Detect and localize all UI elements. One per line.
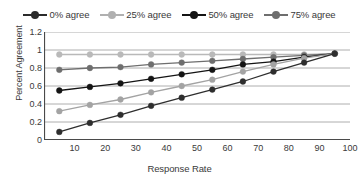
legend-item-0-agree[interactable]: 0% agree (23, 10, 89, 20)
legend-dot-icon (31, 11, 39, 19)
series-3 (56, 51, 337, 114)
x-tick-label: 90 (307, 143, 331, 153)
y-axis-tick-labels: 00.20.40.60.811.2 (18, 32, 42, 140)
x-axis-tick-labels: 102030405060708090100 (44, 142, 350, 156)
chart-svg (44, 32, 350, 140)
x-tick-label: 50 (185, 143, 209, 153)
chart-legend: 0% agree 25% agree 50% agree 75% agree (0, 4, 359, 26)
legend-item-75-agree[interactable]: 75% agree (264, 10, 335, 20)
y-tick-label: 1 (20, 46, 42, 55)
x-tick-label: 40 (154, 143, 178, 153)
y-tick-label: 0.8 (20, 64, 42, 73)
x-tick-label: 80 (277, 143, 301, 153)
series-2 (56, 51, 337, 94)
x-axis-title: Response Rate (0, 163, 359, 174)
x-tick-label: 20 (93, 143, 117, 153)
x-tick-label: 60 (216, 143, 240, 153)
x-tick-label: 30 (124, 143, 148, 153)
legend-item-25-agree[interactable]: 25% agree (100, 10, 171, 20)
legend-marker-icon (23, 11, 47, 20)
x-tick-label: 70 (246, 143, 270, 153)
plot-area (44, 32, 350, 140)
legend-marker-icon (100, 11, 124, 20)
chart-figure: 0% agree 25% agree 50% agree 75% agree P… (0, 0, 359, 187)
legend-dot-icon (272, 11, 280, 19)
legend-dot-icon (190, 11, 198, 19)
legend-label: 0% agree (49, 10, 89, 20)
y-tick-label: 0 (20, 136, 42, 145)
x-tick-label: 100 (338, 143, 359, 153)
y-tick-label: 1.2 (20, 28, 42, 37)
legend-item-50-agree[interactable]: 50% agree (182, 10, 253, 20)
legend-marker-icon (182, 11, 206, 20)
y-tick-label: 0.4 (20, 100, 42, 109)
y-tick-label: 0.2 (20, 118, 42, 127)
legend-marker-icon (264, 11, 288, 20)
legend-dot-icon (108, 11, 116, 19)
legend-label: 75% agree (290, 10, 335, 20)
x-tick-label: 10 (63, 143, 87, 153)
legend-label: 25% agree (126, 10, 171, 20)
y-tick-label: 0.6 (20, 82, 42, 91)
legend-label: 50% agree (208, 10, 253, 20)
